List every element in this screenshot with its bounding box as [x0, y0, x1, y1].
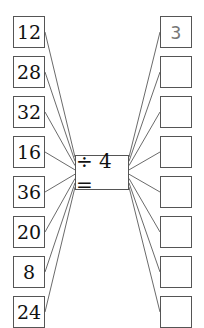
- input-number-box: 32: [13, 96, 45, 128]
- input-number-box: 28: [13, 56, 45, 88]
- input-number-box: 16: [13, 136, 45, 168]
- input-number-box: 12: [13, 16, 45, 48]
- answer-box[interactable]: [160, 216, 192, 248]
- answer-box[interactable]: [160, 96, 192, 128]
- answer-box[interactable]: 3: [160, 16, 192, 48]
- answer-box[interactable]: [160, 136, 192, 168]
- input-number-box: 36: [13, 176, 45, 208]
- input-number-box: 24: [13, 296, 45, 328]
- answer-box[interactable]: [160, 296, 192, 328]
- answer-box[interactable]: [160, 256, 192, 288]
- input-number-box: 8: [13, 256, 45, 288]
- answer-box[interactable]: [160, 176, 192, 208]
- operation-label: ÷ 4 =: [76, 149, 128, 197]
- input-number-box: 20: [13, 216, 45, 248]
- answer-box[interactable]: [160, 56, 192, 88]
- operation-box: ÷ 4 =: [75, 155, 129, 190]
